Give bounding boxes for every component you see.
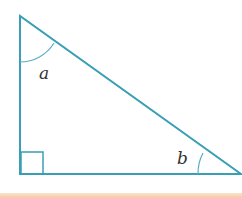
angle-b-arc (198, 153, 203, 174)
angle-a-arc (20, 43, 54, 62)
triangle (20, 16, 241, 174)
bottom-divider-strip (0, 193, 242, 198)
angle-b-label: b (177, 148, 188, 168)
triangle-diagram: a b (0, 0, 242, 198)
right-angle-marker (21, 152, 43, 174)
angle-a-label: a (39, 63, 49, 83)
